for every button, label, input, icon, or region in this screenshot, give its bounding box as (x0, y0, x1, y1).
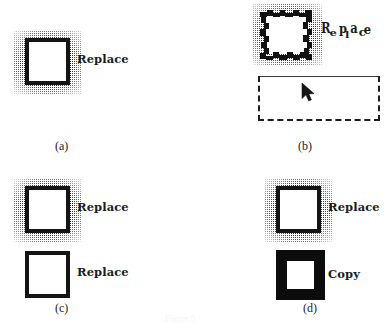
panel-c: Replace Replace (c) (0, 161, 195, 323)
mouse-pointer-icon (301, 82, 317, 104)
button-label-replace: Replace (77, 54, 129, 66)
jitter-glyph: e (364, 23, 371, 37)
jitter-glyph: a (350, 21, 357, 36)
selection-edge-right (378, 76, 380, 121)
figure-root: Replace (a) (0, 0, 390, 323)
button-label-replace: Replace (77, 267, 129, 279)
panel-d: Replace Copy (d) (195, 161, 390, 323)
panel-caption-a: (a) (55, 140, 68, 152)
selection-edge-bottom (258, 119, 380, 121)
square-outline-icon[interactable] (25, 186, 70, 233)
button-label-replace: Replace (77, 202, 129, 214)
panel-caption-d: (d) (303, 302, 317, 314)
button-label-replace: Replace (328, 202, 380, 214)
square-solid-thick-icon[interactable] (276, 250, 325, 300)
panel-caption-b: (b) (298, 140, 312, 152)
selection-edge-top (258, 76, 380, 77)
selection-edge-left (258, 76, 260, 121)
panel-b: Replace (b) (195, 0, 390, 161)
square-outline-icon[interactable] (25, 251, 70, 298)
jitter-glyph: l (345, 30, 349, 40)
square-outline-jagged-icon[interactable] (260, 10, 312, 60)
dashed-selection-rectangle[interactable] (258, 76, 380, 121)
jitter-glyph: e (330, 29, 337, 38)
panel-caption-c: (c) (55, 302, 68, 314)
button-label-copy: Copy (328, 269, 360, 281)
button-label-replace-jittered: Replace (321, 26, 372, 38)
figure-footer-caption: Figure 5 (165, 314, 195, 323)
square-outline-icon[interactable] (276, 186, 321, 233)
panel-a: Replace (a) (0, 0, 195, 161)
square-outline-icon[interactable] (25, 38, 70, 85)
